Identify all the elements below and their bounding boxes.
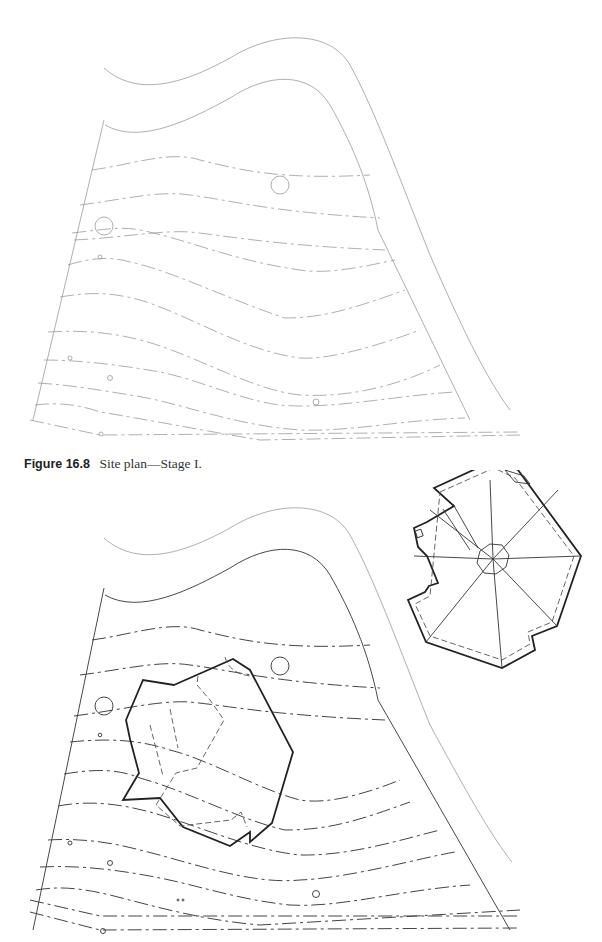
tree-icon xyxy=(68,841,72,845)
road-edge xyxy=(104,508,430,725)
property-boundary xyxy=(33,120,104,420)
tree-icon xyxy=(99,432,103,436)
property-boundary xyxy=(378,230,470,420)
road-edge xyxy=(105,79,378,230)
property-boundary xyxy=(378,700,510,930)
tree-icon xyxy=(313,891,320,898)
figure-caption-text: Site plan—Stage I. xyxy=(99,456,201,471)
tree-icon xyxy=(95,697,113,715)
tree-icon xyxy=(68,356,72,360)
house-footprint-hidden xyxy=(150,657,250,827)
tree-icon xyxy=(108,376,113,381)
road-edge-lower xyxy=(430,255,510,410)
site-plan-stage-1-with-house xyxy=(0,470,602,942)
tree-icon xyxy=(108,861,113,866)
tree-icon xyxy=(177,899,179,901)
figure-number: Figure 16.8 xyxy=(24,457,90,471)
tree-icon xyxy=(95,217,113,235)
road-edge-lower xyxy=(430,725,512,862)
tree-icon xyxy=(101,929,106,934)
tree-icon xyxy=(271,176,289,194)
property-boundary xyxy=(33,588,104,930)
house-footprint xyxy=(123,659,293,846)
road-edge xyxy=(104,38,430,255)
contour-lines xyxy=(30,157,520,440)
roof-plan xyxy=(408,470,581,668)
contour-lines xyxy=(30,627,520,930)
tree-icon xyxy=(271,657,289,675)
tree-icon xyxy=(182,899,184,901)
site-plan-stage-1 xyxy=(0,0,602,450)
road-edge xyxy=(105,549,378,700)
tree-icon xyxy=(98,733,102,737)
tree-icon xyxy=(313,399,319,405)
